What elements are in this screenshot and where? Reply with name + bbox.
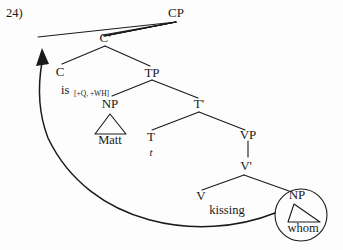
node-cp: CP [168,5,184,20]
terminal-verb: kissing [209,203,245,217]
triangle-object [288,204,320,222]
wh-movement-arrow [40,62,275,227]
branch-vbar-np [244,175,289,191]
syntax-tree-figure: 24) CP C' C TP NP T' T VP V' V NP is [+Q… [0,0,343,250]
node-v-bar: V' [240,158,252,173]
terminal-c-head: is [61,83,69,97]
node-c-bar: C' [99,30,110,45]
node-v: V [196,188,206,203]
example-number: 24) [6,6,23,20]
terminal-trace: t [149,146,153,158]
terminal-object: whom [287,221,319,235]
node-t: T [147,129,155,144]
branch-tp-tbar [152,80,198,98]
branch-tp-np [112,80,152,96]
node-t-bar: T' [194,96,204,111]
terminal-subject: Matt [98,133,122,147]
branch-tbar-vp [199,112,245,130]
wh-movement-arrowhead [36,48,49,66]
tree-diagram-canvas: 24) CP C' C TP NP T' T VP V' V NP is [+Q… [0,0,343,250]
branch-vbar-v [202,175,244,190]
branch-tbar-t [152,112,199,130]
node-c: C [56,64,65,79]
node-tp: TP [144,65,159,80]
node-vp: VP [240,127,257,142]
c-features-subscript: [+Q, +WH] [74,89,109,98]
branch-cbar-c [62,46,105,64]
triangle-subject [95,114,126,134]
branch-cbar-tp [105,46,150,66]
node-np-subject: NP [102,96,119,111]
